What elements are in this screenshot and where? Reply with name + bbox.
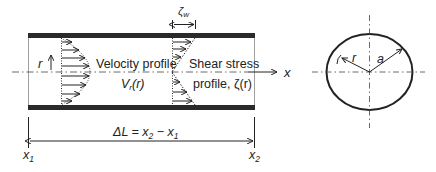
cross-section-a-label: a (377, 52, 384, 66)
zeta-w-dimension (173, 20, 196, 29)
pipe-cross-section (312, 15, 425, 128)
r-label: r (38, 56, 43, 71)
x-axis-label: x (283, 65, 291, 80)
pipe-bottom-wall (28, 105, 255, 110)
velocity-profile (61, 38, 90, 105)
shear-stress-label: Shear stress (189, 57, 259, 71)
velocity-profile-label: Velocity profile (96, 57, 177, 71)
pipe-flow-diagram: x r Velocity profile Vr(r) ζw Shear stre… (0, 0, 436, 172)
shear-stress-profile (172, 38, 195, 105)
delta-l-label: ΔL = x2 − x1 (112, 125, 179, 141)
zeta-w-label: ζw (178, 5, 190, 19)
shear-profile-label: profile, ζ(r) (193, 77, 252, 91)
x2-label: x2 (248, 148, 260, 164)
velocity-symbol-label: Vr(r) (121, 77, 145, 92)
cross-section-r-label: r (352, 51, 357, 65)
pipe-top-wall (28, 33, 255, 38)
x1-label: x1 (22, 148, 34, 164)
